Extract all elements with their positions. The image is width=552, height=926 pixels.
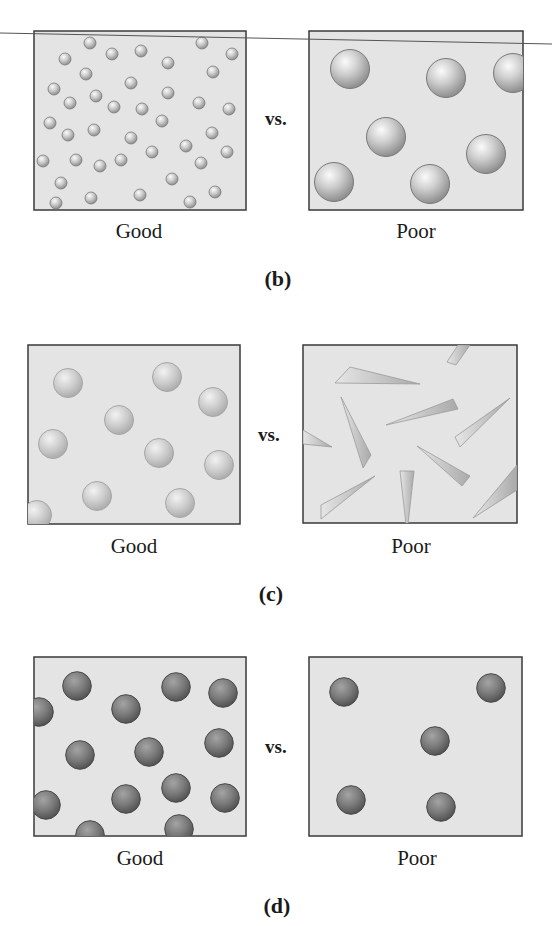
sphere-icon: [63, 672, 92, 701]
sphere-icon: [55, 177, 67, 189]
sphere-icon: [48, 83, 60, 95]
sphere-icon: [112, 695, 141, 724]
sphere-icon: [125, 77, 137, 89]
sphere-icon: [206, 127, 218, 139]
sphere-icon: [205, 729, 234, 758]
vs-label: vs.: [258, 424, 280, 446]
sphere-icon: [112, 785, 141, 814]
sphere-icon: [105, 406, 134, 435]
sphere-icon: [195, 157, 207, 169]
sphere-icon: [44, 117, 56, 129]
sphere-icon: [32, 791, 61, 820]
poor-caption: Poor: [357, 846, 477, 871]
sphere-icon: [196, 37, 208, 49]
sphere-icon: [226, 48, 238, 60]
sphere-icon: [64, 97, 76, 109]
sphere-icon: [88, 124, 100, 136]
sphere-icon: [66, 741, 95, 770]
sphere-icon: [145, 439, 174, 468]
vs-label: vs.: [265, 736, 287, 758]
sphere-icon: [85, 192, 97, 204]
good-caption: Good: [79, 219, 199, 244]
sphere-icon: [70, 154, 82, 166]
sphere-icon: [115, 154, 127, 166]
sphere-icon: [54, 369, 83, 398]
sphere-icon: [84, 37, 96, 49]
sphere-icon: [427, 793, 456, 822]
sphere-icon: [125, 132, 137, 144]
sphere-icon: [330, 678, 359, 707]
sphere-icon: [162, 673, 191, 702]
sphere-icon: [477, 674, 506, 703]
sphere-icon: [209, 186, 221, 198]
sphere-icon: [166, 173, 178, 185]
sphere-icon: [211, 784, 240, 813]
panel-label-c: (c): [241, 581, 301, 607]
poor-caption: Poor: [351, 534, 471, 559]
sphere-icon: [367, 118, 406, 157]
sphere-icon: [494, 54, 533, 93]
sphere-icon: [50, 197, 62, 209]
sphere-icon: [146, 146, 158, 158]
sphere-icon: [162, 57, 174, 69]
sphere-icon: [90, 90, 102, 102]
sphere-icon: [62, 129, 74, 141]
sphere-icon: [135, 738, 164, 767]
sphere-icon: [80, 68, 92, 80]
sphere-icon: [106, 48, 118, 60]
vs-label: vs.: [265, 108, 287, 130]
sphere-icon: [165, 815, 194, 844]
good-caption: Good: [80, 846, 200, 871]
sphere-icon: [83, 482, 112, 511]
sphere-icon: [467, 135, 506, 174]
sphere-icon: [94, 160, 106, 172]
sphere-icon: [135, 45, 147, 57]
sphere-icon: [134, 189, 146, 201]
sphere-icon: [209, 679, 238, 708]
sphere-icon: [59, 53, 71, 65]
sphere-icon: [221, 146, 233, 158]
sphere-icon: [223, 103, 235, 115]
sphere-icon: [331, 50, 370, 89]
poor-caption: Poor: [356, 219, 476, 244]
sphere-icon: [337, 786, 366, 815]
sphere-icon: [199, 388, 228, 417]
sphere-icon: [427, 59, 466, 98]
sphere-icon: [421, 727, 450, 756]
sphere-icon: [205, 451, 234, 480]
sphere-icon: [184, 196, 196, 208]
sphere-icon: [156, 115, 168, 127]
sphere-icon: [315, 163, 354, 202]
good-caption: Good: [74, 534, 194, 559]
sphere-icon: [153, 363, 182, 392]
sphere-icon: [162, 87, 174, 99]
packing-comparison-figure: [0, 0, 552, 926]
sphere-icon: [108, 101, 120, 113]
sphere-icon: [39, 430, 68, 459]
sphere-icon: [180, 140, 192, 152]
sphere-icon: [411, 165, 450, 204]
panel-label-b: (b): [248, 266, 308, 292]
sphere-icon: [166, 489, 195, 518]
sphere-icon: [207, 66, 219, 78]
sphere-icon: [136, 103, 148, 115]
sphere-icon: [23, 501, 52, 530]
sphere-icon: [25, 698, 54, 727]
sphere-icon: [193, 97, 205, 109]
sphere-icon: [76, 821, 105, 850]
sphere-icon: [162, 774, 191, 803]
panel-label-d: (d): [247, 893, 307, 919]
sphere-icon: [37, 155, 49, 167]
